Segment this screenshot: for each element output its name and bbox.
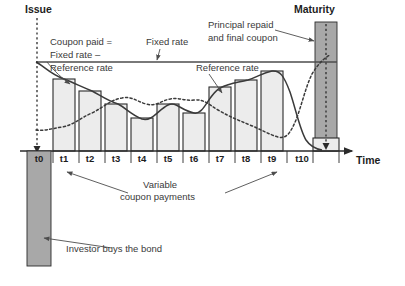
tick-t1: t1 (53, 153, 75, 164)
variable-payments-line-1: Variable (143, 180, 177, 191)
time-axis-label: Time (356, 155, 380, 166)
tick-t7: t7 (209, 153, 231, 164)
tick-t5: t5 (157, 153, 179, 164)
coupon-formula-line-2: Fixed rate – (50, 50, 100, 61)
maturity-label: Maturity (294, 4, 335, 15)
bar-t1 (53, 79, 75, 151)
tick-t0: t0 (28, 153, 50, 164)
tick-t4: t4 (131, 153, 153, 164)
bar-t8 (235, 80, 257, 151)
diagram-root: Issue Maturity Coupon paid = Fixed rate … (0, 0, 405, 286)
bar-t2 (79, 91, 101, 151)
leader-fixed-rate (157, 49, 160, 60)
tick-t6: t6 (183, 153, 205, 164)
leader-variable-left (67, 172, 128, 193)
bar-t4 (131, 118, 153, 151)
bar-t3 (105, 104, 127, 151)
investor-label: Investor buys the bond (66, 244, 162, 255)
principal-label-line-1: Principal repaid (208, 20, 273, 31)
investor-purchase-block (27, 151, 51, 266)
reference-rate-label: Reference rate (196, 63, 259, 74)
principal-label-line-2: and final coupon (208, 33, 278, 44)
tick-t8: t8 (235, 153, 257, 164)
leader-principal (275, 30, 314, 41)
variable-payments-line-2: coupon payments (120, 192, 195, 203)
fixed-rate-label: Fixed rate (146, 37, 188, 48)
tick-t2: t2 (79, 153, 101, 164)
coupon-formula-line-1: Coupon paid = (50, 37, 112, 48)
bar-t6 (183, 113, 205, 151)
tick-t9: t9 (261, 153, 283, 164)
coupon-formula-line-3: Reference rate (50, 63, 113, 74)
bar-t7 (209, 87, 231, 151)
tick-t3: t3 (105, 153, 127, 164)
bar-t9 (261, 71, 283, 151)
leader-variable-right (225, 172, 277, 193)
issue-label: Issue (25, 4, 52, 15)
tick-t10: t10 (289, 153, 315, 164)
